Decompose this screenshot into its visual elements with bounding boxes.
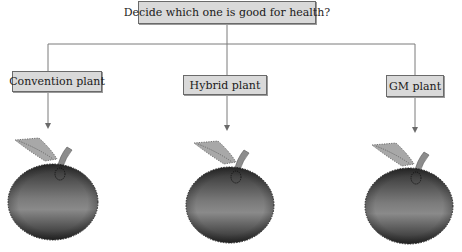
hybrid-plant-label: Hybrid plant (190, 80, 261, 91)
apple-icon (362, 138, 458, 248)
convention-plant-label: Convention plant (9, 76, 105, 87)
gm-plant-label: GM plant (389, 81, 441, 92)
hybrid-plant-box: Hybrid plant (183, 75, 267, 95)
apple-icon (5, 133, 101, 243)
convention-plant-box: Convention plant (12, 71, 102, 92)
question-text: Decide which one is good for health? (124, 7, 331, 18)
question-box: Decide which one is good for health? (138, 1, 316, 24)
apple-icon (184, 136, 280, 246)
gm-plant-box: GM plant (386, 75, 444, 97)
